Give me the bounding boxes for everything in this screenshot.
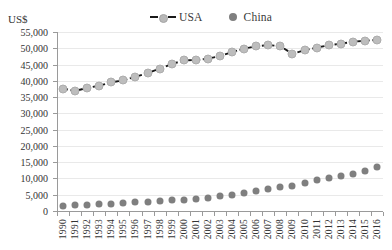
y-axis-label-20000: 20,000 <box>21 140 49 151</box>
y-axis-label-50000: 50,000 <box>21 43 49 54</box>
x-tick-14 <box>226 212 227 216</box>
point-china-2013 <box>337 172 344 179</box>
point-china-2009 <box>289 182 296 189</box>
y-axis-label-40000: 40,000 <box>21 75 49 86</box>
point-usa-2015 <box>360 36 369 45</box>
point-usa-1995 <box>119 76 128 85</box>
series-lines <box>0 0 392 250</box>
x-axis-label-2015: 2015 <box>360 219 370 239</box>
legend-label-china: China <box>244 11 272 23</box>
point-china-1994 <box>108 200 115 207</box>
point-usa-2008 <box>276 42 285 51</box>
y-axis-label-30000: 30,000 <box>21 108 49 119</box>
x-axis-label-2005: 2005 <box>239 219 249 239</box>
point-usa-2011 <box>312 43 321 52</box>
gridline-45000 <box>57 65 383 66</box>
x-tick-18 <box>274 212 275 216</box>
point-china-1992 <box>84 201 91 208</box>
x-axis-label-2011: 2011 <box>312 219 322 239</box>
x-tick-9 <box>166 212 167 216</box>
point-china-2001 <box>192 195 199 202</box>
x-tick-27 <box>383 212 384 216</box>
point-usa-2002 <box>203 54 212 63</box>
x-tick-20 <box>298 212 299 216</box>
point-china-2010 <box>301 180 308 187</box>
x-tick-4 <box>105 212 106 216</box>
x-tick-3 <box>93 212 94 216</box>
x-tick-17 <box>262 212 263 216</box>
x-tick-22 <box>323 212 324 216</box>
x-axis-label-1993: 1993 <box>94 219 104 239</box>
point-china-1990 <box>60 203 67 210</box>
point-usa-2013 <box>336 39 345 48</box>
point-china-2007 <box>265 186 272 193</box>
legend-item-usa[interactable]: USA <box>150 11 203 23</box>
x-tick-26 <box>371 212 372 216</box>
x-tick-15 <box>238 212 239 216</box>
point-china-1998 <box>156 197 163 204</box>
x-tick-23 <box>335 212 336 216</box>
point-usa-2006 <box>252 42 261 51</box>
x-axis-label-1992: 1992 <box>82 219 92 239</box>
x-axis-label-2010: 2010 <box>300 219 310 239</box>
point-china-2014 <box>349 170 356 177</box>
point-usa-2005 <box>240 44 249 53</box>
point-usa-2012 <box>324 41 333 50</box>
x-tick-11 <box>190 212 191 216</box>
point-usa-2007 <box>264 41 273 50</box>
x-axis-label-2004: 2004 <box>227 219 237 239</box>
x-tick-8 <box>154 212 155 216</box>
x-axis-label-2016: 2016 <box>372 219 382 239</box>
point-usa-1991 <box>71 86 80 95</box>
x-axis-label-2014: 2014 <box>348 219 358 239</box>
gridline-15000 <box>57 162 383 163</box>
x-axis-label-2008: 2008 <box>275 219 285 239</box>
point-usa-1999 <box>167 60 176 69</box>
point-china-2004 <box>229 192 236 199</box>
point-china-2002 <box>204 194 211 201</box>
x-tick-2 <box>81 212 82 216</box>
point-usa-2001 <box>191 55 200 64</box>
x-axis-label-1995: 1995 <box>118 219 128 239</box>
point-china-2005 <box>241 190 248 197</box>
x-tick-13 <box>214 212 215 216</box>
point-usa-1992 <box>83 83 92 92</box>
point-china-2016 <box>373 164 380 171</box>
gridline-10000 <box>57 178 383 179</box>
point-china-2015 <box>361 167 368 174</box>
point-china-1993 <box>96 201 103 208</box>
point-china-1999 <box>168 197 175 204</box>
gridline-25000 <box>57 130 383 131</box>
gridline-30000 <box>57 113 383 114</box>
y-axis-label-25000: 25,000 <box>21 124 49 135</box>
x-tick-0 <box>57 212 58 216</box>
point-usa-2004 <box>228 48 237 57</box>
x-axis-label-1996: 1996 <box>130 219 140 239</box>
y-axis-label-0: 0 <box>43 206 48 217</box>
point-usa-1996 <box>131 72 140 81</box>
point-usa-2000 <box>179 56 188 65</box>
x-tick-7 <box>142 212 143 216</box>
chart-legend: USA China <box>150 11 272 23</box>
x-tick-5 <box>117 212 118 216</box>
point-china-2006 <box>253 188 260 195</box>
legend-item-china[interactable]: China <box>229 11 272 23</box>
x-axis-label-2013: 2013 <box>336 219 346 239</box>
point-usa-1994 <box>107 78 116 87</box>
x-tick-19 <box>286 212 287 216</box>
point-china-2011 <box>313 177 320 184</box>
point-china-2012 <box>325 175 332 182</box>
x-axis-label-1997: 1997 <box>143 219 153 239</box>
point-china-2000 <box>180 196 187 203</box>
point-china-1995 <box>120 199 127 206</box>
china-series-marker-icon <box>229 13 237 21</box>
legend-label-usa: USA <box>179 11 203 23</box>
point-usa-2016 <box>372 35 381 44</box>
x-axis-label-2006: 2006 <box>251 219 261 239</box>
y-axis-label-45000: 45,000 <box>21 59 49 70</box>
point-usa-2014 <box>348 37 357 46</box>
x-axis-label-2001: 2001 <box>191 219 201 239</box>
x-tick-21 <box>311 212 312 216</box>
y-axis-label-10000: 10,000 <box>21 173 49 184</box>
point-china-2008 <box>277 184 284 191</box>
